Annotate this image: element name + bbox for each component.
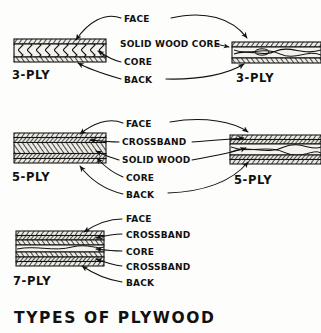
layer-back <box>16 262 104 267</box>
layer-core <box>16 240 104 245</box>
layer-face <box>16 231 104 236</box>
layer-back <box>14 159 106 164</box>
layer-face <box>232 42 321 47</box>
label-core: CORE <box>126 173 154 183</box>
caption-3ply-right: 3-PLY <box>236 71 274 85</box>
layer-core <box>14 143 106 154</box>
label-back: BACK <box>126 278 155 288</box>
label-solid-wood: SOLID WOOD <box>122 155 191 165</box>
layer-crossband <box>16 236 104 241</box>
layer-back <box>14 57 106 62</box>
caption-5ply-right: 5-PLY <box>234 173 272 187</box>
label-crossband-upper: CROSSBAND <box>126 230 190 240</box>
caption-5ply-left: 5-PLY <box>12 170 50 184</box>
layer-back <box>230 160 321 165</box>
layer-face <box>230 135 321 140</box>
layer-crossband <box>14 154 106 159</box>
label-solid-wood-core: SOLID WOOD CORE <box>120 39 220 49</box>
layer-core <box>16 252 104 257</box>
label-face: FACE <box>124 14 150 24</box>
label-back: BACK <box>124 75 153 85</box>
page-title: TYPES OF PLYWOOD <box>14 309 215 327</box>
layer-face <box>14 39 106 44</box>
label-core: CORE <box>124 57 152 67</box>
label-crossband: CROSSBAND <box>122 137 186 147</box>
label-core: CORE <box>126 247 154 257</box>
caption-3ply-left: 3-PLY <box>12 68 50 82</box>
layer-crossband <box>230 140 321 145</box>
layer-crossband <box>230 155 321 160</box>
label-crossband-lower: CROSSBAND <box>126 262 190 272</box>
layer-crossband <box>16 257 104 262</box>
layer-core <box>14 44 106 57</box>
label-back: BACK <box>126 190 155 200</box>
label-face: FACE <box>126 119 152 129</box>
layer-face <box>14 133 106 138</box>
layer-back <box>232 58 321 63</box>
caption-7ply: 7-PLY <box>13 274 51 288</box>
label-face: FACE <box>126 214 152 224</box>
plywood-types-diagram: 3-PLY 3-PLY FACE SOLID WOOD CORE CORE BA… <box>0 0 321 333</box>
